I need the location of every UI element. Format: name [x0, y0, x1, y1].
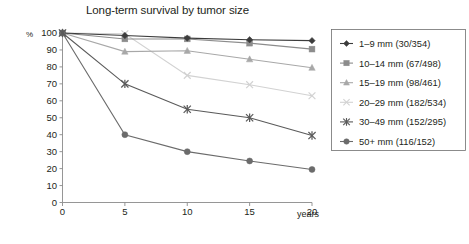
x-axis-unit-label: years: [297, 209, 320, 219]
legend-item-label: 30–49 mm (152/295): [359, 116, 446, 127]
y-axis-tick-labels: 1009080706050403020100: [41, 27, 57, 208]
data-point-marker: [122, 132, 128, 138]
y-tick-label: 40: [46, 129, 57, 140]
legend-item-label: 50+ mm (116/152): [359, 136, 435, 147]
y-tick-label: 50: [46, 112, 57, 123]
legend-item-label: 15–19 mm (98/461): [359, 77, 441, 88]
y-tick-label: 60: [46, 95, 57, 106]
data-point-marker: [309, 166, 315, 172]
series-line: [63, 33, 313, 96]
y-axis-unit-label: %: [26, 30, 33, 39]
x-tick-label: 10: [182, 206, 193, 217]
axis-tick-marks: [60, 33, 313, 206]
y-tick-label: 80: [46, 61, 57, 72]
y-tick-label: 100: [41, 27, 57, 38]
x-tick-label: 0: [60, 206, 65, 217]
x-tick-label: 5: [122, 206, 127, 217]
legend-item-label: 1–9 mm (30/354): [359, 38, 430, 49]
data-point-marker: [184, 149, 190, 155]
y-tick-label: 0: [52, 197, 57, 208]
data-point-marker: [309, 46, 315, 52]
y-tick-label: 20: [46, 163, 57, 174]
data-point-marker: [344, 139, 350, 145]
legend-item-label: 10–14 mm (67/498): [359, 58, 441, 69]
data-point-marker: [121, 80, 128, 88]
y-tick-label: 10: [46, 180, 57, 191]
data-point-marker: [247, 158, 253, 164]
y-tick-label: 70: [46, 78, 57, 89]
chart-plot-area: 1009080706050403020100 05101520 % years …: [0, 0, 469, 244]
y-tick-label: 30: [46, 146, 57, 157]
x-tick-label: 15: [244, 206, 255, 217]
data-point-marker: [308, 131, 315, 139]
legend-item-label: 20–29 mm (182/534): [359, 97, 446, 108]
data-series-group: [59, 29, 316, 173]
survival-chart: Long-term survival by tumor size 1009080…: [0, 0, 469, 244]
x-axis-tick-labels: 05101520: [60, 206, 317, 217]
y-tick-label: 90: [46, 44, 57, 55]
data-point-marker: [309, 37, 315, 43]
data-point-marker: [344, 60, 349, 65]
